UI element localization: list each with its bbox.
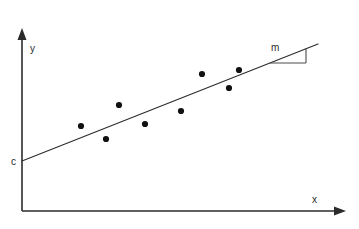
data-point — [178, 108, 184, 114]
x-axis-arrowhead-icon — [334, 207, 346, 216]
data-point — [78, 123, 84, 129]
slope-label: m — [271, 42, 279, 53]
data-point — [142, 121, 148, 127]
regression-diagram: y c x m — [0, 0, 359, 229]
data-point — [199, 71, 205, 77]
data-point — [116, 102, 122, 108]
scatter-points-group — [78, 67, 242, 142]
data-point — [226, 85, 232, 91]
data-point — [103, 136, 109, 142]
regression-fit-line — [22, 44, 318, 161]
data-point — [236, 67, 242, 73]
diagram-canvas: y c x m — [0, 0, 359, 229]
y-axis-label: y — [30, 43, 35, 54]
y-axis-arrowhead-icon — [18, 28, 27, 40]
intercept-label: c — [11, 156, 16, 167]
x-axis-label: x — [312, 194, 317, 205]
